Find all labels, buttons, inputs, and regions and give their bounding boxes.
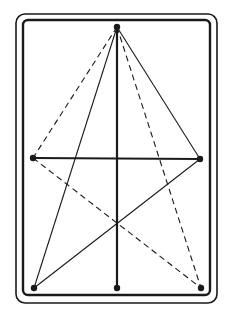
geometric-line-diagram — [0, 0, 231, 324]
point-bottom-center — [114, 285, 120, 291]
point-mid-left — [30, 155, 36, 161]
line-group — [33, 27, 201, 288]
point-mid-right — [197, 156, 203, 162]
point-apex — [114, 24, 120, 30]
point-bottom-left — [31, 285, 37, 291]
point-bottom-right — [198, 285, 204, 291]
line-apex-to-mid-right — [117, 27, 200, 159]
line-mid-left-to-mid-right — [33, 158, 200, 159]
line-apex-to-mid-left — [33, 27, 117, 158]
